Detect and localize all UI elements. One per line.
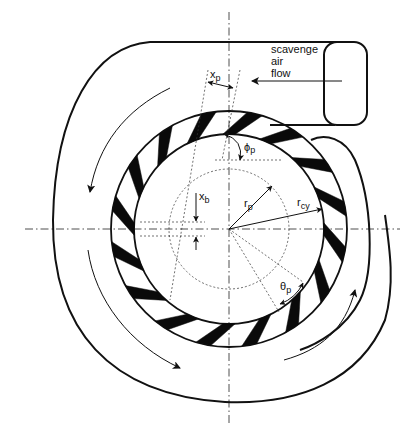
flow-arrow-lower-left xyxy=(88,250,180,368)
construction-lines xyxy=(140,70,303,312)
scavenge-port xyxy=(286,292,301,333)
volute-outer-wall xyxy=(53,42,391,402)
theta-line-b xyxy=(229,229,303,282)
rcy-radius-arrow xyxy=(229,209,322,229)
scavenge-port xyxy=(125,286,166,301)
scavenge-port xyxy=(314,260,330,303)
theta-line-a xyxy=(229,229,279,312)
inlet-label-line2: air xyxy=(271,55,284,67)
flow-arrow-upper-left xyxy=(90,88,170,192)
theta-p-label: θp xyxy=(280,280,291,295)
rp-label: rp xyxy=(244,197,253,212)
scavenge-diagram: scavenge air flow xp ϕp xb rp rcy θp xyxy=(0,0,419,435)
phi-p-label: ϕp xyxy=(244,141,255,155)
inlet-label-line1: scavenge xyxy=(271,43,318,55)
xb-label: xb xyxy=(199,190,210,205)
scavenge-port xyxy=(155,314,198,330)
scavenge-port xyxy=(260,128,303,144)
port-axis-right xyxy=(222,70,240,160)
volute-casing xyxy=(53,42,391,402)
inlet-label-line3: flow xyxy=(271,67,291,79)
scavenge-port xyxy=(158,125,173,166)
scavenge-port xyxy=(128,155,144,198)
port-axis-left xyxy=(170,70,208,300)
inlet-duct xyxy=(324,42,367,125)
scavenge-port xyxy=(292,158,333,173)
rcy-label: rcy xyxy=(297,196,310,211)
xp-label: xp xyxy=(210,68,221,83)
